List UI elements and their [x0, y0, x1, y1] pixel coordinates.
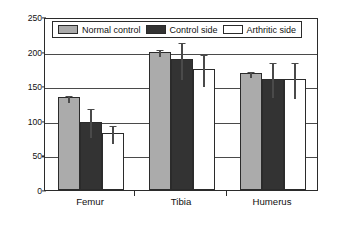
- error-bar-cap: [110, 126, 117, 127]
- legend-item-arthritic-side: Arthritic side: [223, 25, 297, 35]
- error-bar-cap: [157, 50, 164, 51]
- x-axis-separator: [134, 191, 135, 196]
- bar-humerus-normal: [240, 73, 262, 190]
- bar-tibia-normal: [149, 52, 171, 190]
- y-tick-label: 200: [16, 48, 42, 58]
- error-bar-cap: [248, 72, 255, 73]
- error-bar-cap: [201, 55, 208, 56]
- x-axis-label-humerus: Humerus: [253, 196, 292, 207]
- legend: Normal control Control side Arthritic si…: [52, 21, 302, 38]
- y-tick-label: 0: [16, 186, 42, 196]
- bar-femur-normal: [58, 97, 80, 190]
- x-axis-separator: [226, 191, 227, 196]
- error-bar-humerus-arthritic: [294, 63, 295, 99]
- y-tick-label: 250: [16, 13, 42, 23]
- plot-area: [44, 18, 318, 191]
- legend-swatch-icon: [223, 25, 243, 34]
- error-bar-cap: [88, 109, 95, 110]
- x-axis-label-tibia: Tibia: [171, 196, 191, 207]
- legend-label: Normal control: [82, 25, 141, 35]
- legend-label: Arthritic side: [247, 25, 297, 35]
- legend-label: Control side: [170, 25, 218, 35]
- error-bar-cap: [292, 63, 299, 64]
- y-axis-ticks: 250 200 150 100 50 0: [12, 18, 42, 191]
- error-bar-cap: [66, 96, 73, 97]
- error-bar-humerus-control: [272, 63, 273, 98]
- error-bar-tibia-control: [181, 43, 182, 80]
- error-bar-tibia-arthritic: [203, 55, 204, 87]
- x-axis-label-femur: Femur: [76, 196, 104, 207]
- y-tick-label: 100: [16, 117, 42, 127]
- error-bar-cap: [270, 63, 277, 64]
- legend-item-control-side: Control side: [146, 25, 218, 35]
- legend-swatch-icon: [146, 25, 166, 34]
- y-tick-label: 50: [16, 151, 42, 161]
- y-tick-label: 150: [16, 82, 42, 92]
- bar-tibia-arthritic: [193, 69, 215, 190]
- legend-swatch-icon: [58, 25, 78, 34]
- legend-item-normal-control: Normal control: [58, 25, 141, 35]
- error-bar-femur-arthritic: [112, 126, 113, 144]
- error-bar-cap: [179, 43, 186, 44]
- bar-chart: Ultimate bending strength (MPa) 250 200 …: [0, 0, 339, 225]
- error-bar-femur-control: [90, 109, 91, 138]
